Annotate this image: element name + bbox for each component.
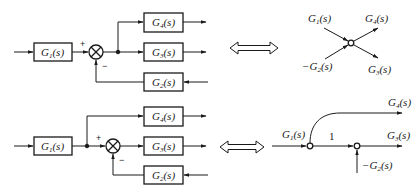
top-g4-label: G4(s) [152, 16, 175, 30]
bottom-g4-label: G4(s) [152, 110, 175, 124]
top-plus-sign: + [80, 39, 85, 49]
top-signal-flow-graph [324, 28, 378, 59]
bottom-g2-label: G2(s) [152, 169, 175, 183]
bottom-plus-sign: + [96, 133, 101, 143]
top-branch-to-g4 [118, 22, 143, 52]
bottom-g1-label: G1(s) [41, 140, 64, 154]
top-minus-sign: − [102, 61, 107, 71]
bottom-minus-sign: − [119, 155, 124, 165]
bottom-sfg-g3-label: G3(s) [387, 129, 410, 143]
bottom-equivalence-double-arrow-icon [220, 141, 264, 153]
top-g2-label: G2(s) [152, 76, 175, 90]
bottom-sfg-node-1 [307, 143, 313, 149]
top-g3-label: G3(s) [152, 46, 175, 60]
bottom-sfg-g2-label: −G2(s) [362, 159, 393, 173]
bottom-sfg-unity-label: 1 [329, 130, 335, 142]
top-sfg-g2-branch [325, 45, 348, 59]
top-sfg-g3-branch [354, 45, 378, 58]
top-sfg-g1-branch [324, 28, 348, 41]
top-equivalence-double-arrow-icon [230, 42, 278, 54]
top-sfg-g1-label: G1(s) [308, 12, 331, 26]
bottom-feedback-path [113, 154, 144, 175]
top-g1-label: G1(s) [41, 46, 64, 60]
top-sfg-g4-label: G4(s) [365, 12, 388, 26]
bottom-g3-label: G3(s) [152, 140, 175, 154]
top-sfg-g2-label: −G2(s) [302, 60, 333, 74]
bottom-sfg-g4-label: G4(s) [388, 96, 411, 110]
top-sfg-node [348, 40, 354, 46]
bottom-summing-junction [106, 139, 120, 153]
top-summing-junction [89, 45, 103, 59]
bottom-sfg-g1-label: G1(s) [282, 128, 305, 142]
top-sfg-g4-branch [354, 28, 378, 41]
top-sfg-g3-label: G3(s) [368, 63, 391, 77]
bottom-sfg-node-2 [354, 143, 360, 149]
diagram-canvas: + − G1(s) G4(s) G3(s) G2(s) G1(s) G4(s) … [0, 0, 416, 196]
